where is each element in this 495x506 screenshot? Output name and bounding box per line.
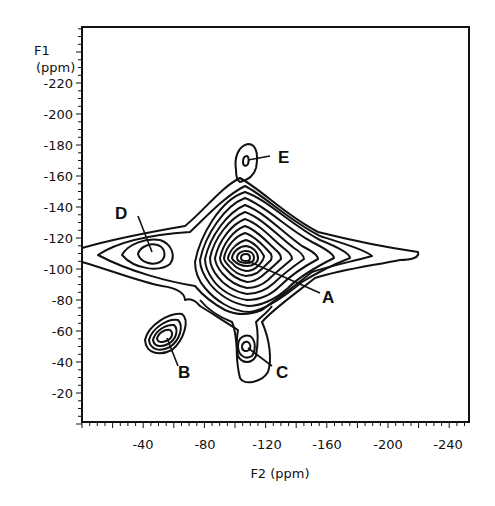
svg-text:-40: -40	[52, 355, 73, 370]
peak-label-d: D	[115, 204, 127, 223]
contours	[82, 144, 418, 382]
x-tick-labels: -40 -80 -120 -160 -200 -240	[132, 437, 462, 452]
svg-text:-80: -80	[52, 293, 73, 308]
contour-plot: -20 -40 -60 -80 -100 -120 -140 -160 -180…	[0, 0, 495, 506]
svg-text:-200: -200	[43, 107, 73, 122]
svg-text:-120: -120	[43, 231, 73, 246]
svg-text:-140: -140	[43, 200, 73, 215]
svg-text:-240: -240	[433, 437, 463, 452]
svg-text:-100: -100	[43, 262, 73, 277]
y-tick-labels: -20 -40 -60 -80 -100 -120 -140 -160 -180…	[43, 76, 73, 401]
peak-label-b: B	[178, 363, 190, 382]
y-axis-label-line1: F1	[34, 43, 50, 58]
peak-label-a: A	[322, 288, 334, 307]
peak-label-e: E	[278, 148, 289, 167]
svg-text:-160: -160	[43, 169, 73, 184]
svg-text:-120: -120	[252, 437, 282, 452]
svg-text:-200: -200	[373, 437, 403, 452]
peak-label-c: C	[276, 363, 288, 382]
svg-text:-80: -80	[194, 437, 215, 452]
svg-text:-220: -220	[43, 76, 73, 91]
x-axis-label: F2 (ppm)	[250, 466, 309, 481]
y-axis-label-line2: (ppm)	[36, 60, 75, 75]
svg-text:-160: -160	[312, 437, 342, 452]
svg-text:-60: -60	[52, 324, 73, 339]
svg-text:-40: -40	[132, 437, 153, 452]
svg-text:-20: -20	[52, 386, 73, 401]
svg-text:-180: -180	[43, 138, 73, 153]
